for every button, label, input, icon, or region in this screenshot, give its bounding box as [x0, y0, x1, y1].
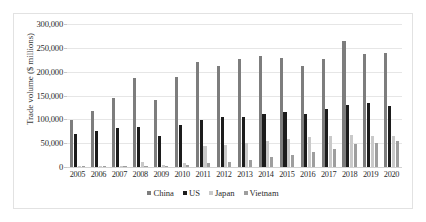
year-group: 2013 — [235, 24, 256, 167]
year-group: 2011 — [193, 24, 214, 167]
legend-label: Japan — [215, 188, 235, 198]
year-group: 2019 — [360, 24, 381, 167]
year-group: 2018 — [339, 24, 360, 167]
bar-china-2010 — [175, 77, 178, 167]
bar-china-2017 — [322, 59, 325, 167]
legend-item-china[interactable]: China — [147, 188, 174, 198]
x-tick-label: 2012 — [216, 170, 231, 179]
y-tick-label: 300,000 — [36, 19, 63, 29]
legend-item-japan[interactable]: Japan — [209, 188, 235, 198]
bar-china-2011 — [196, 62, 199, 167]
x-tick-label: 2011 — [196, 170, 211, 179]
bar-japan-2010 — [183, 163, 186, 167]
legend-item-us[interactable]: US — [183, 188, 200, 198]
year-group: 2017 — [318, 24, 339, 167]
bar-japan-2008 — [141, 162, 144, 167]
bar-japan-2009 — [162, 165, 165, 167]
chart-container: Trade volume ($ millions) 050,000100,000… — [13, 13, 413, 209]
bar-vietnam-2009 — [165, 166, 168, 167]
bar-japan-2014 — [266, 141, 269, 167]
bar-china-2019 — [363, 54, 366, 167]
x-tick-label: 2008 — [133, 170, 148, 179]
x-tick-label: 2018 — [342, 170, 357, 179]
bar-us-2010 — [179, 125, 182, 167]
bar-china-2005 — [70, 120, 73, 167]
year-group: 2012 — [214, 24, 235, 167]
year-group: 2015 — [276, 24, 297, 167]
bar-vietnam-2020 — [396, 141, 399, 167]
bar-us-2007 — [116, 128, 119, 167]
bar-us-2012 — [221, 117, 224, 167]
year-group: 2014 — [255, 24, 276, 167]
bar-us-2016 — [304, 114, 307, 167]
bar-china-2016 — [301, 66, 304, 167]
x-tick-label: 2010 — [174, 170, 189, 179]
y-tick-label: 250,000 — [36, 43, 63, 53]
bar-us-2013 — [242, 117, 245, 167]
bar-japan-2020 — [392, 136, 395, 167]
legend-label: Vietnam — [250, 188, 279, 198]
bar-china-2015 — [280, 58, 283, 167]
x-tick-label: 2013 — [237, 170, 252, 179]
x-tick-label: 2006 — [91, 170, 106, 179]
bar-vietnam-2016 — [312, 152, 315, 167]
bar-china-2007 — [112, 98, 115, 167]
bar-vietnam-2011 — [207, 163, 210, 167]
bar-vietnam-2018 — [354, 144, 357, 167]
bar-us-2018 — [346, 105, 349, 167]
bar-us-2014 — [262, 114, 265, 167]
bar-japan-2017 — [329, 136, 332, 167]
bar-us-2009 — [158, 136, 161, 167]
bar-vietnam-2012 — [228, 162, 231, 167]
bar-vietnam-2017 — [333, 149, 336, 167]
x-tick-label: 2014 — [258, 170, 273, 179]
bar-japan-2016 — [308, 137, 311, 167]
year-group: 2010 — [172, 24, 193, 167]
x-tick-label: 2015 — [279, 170, 294, 179]
bar-vietnam-2015 — [291, 155, 294, 167]
y-tick-label: 100,000 — [36, 114, 63, 124]
bar-china-2018 — [342, 41, 345, 167]
y-tick-label: 0 — [59, 162, 63, 172]
bar-japan-2005 — [78, 166, 81, 167]
bar-china-2012 — [217, 66, 220, 167]
x-tick-label: 2020 — [384, 170, 399, 179]
bar-us-2015 — [283, 112, 286, 167]
year-group: 2009 — [151, 24, 172, 167]
year-group: 2007 — [109, 24, 130, 167]
year-group: 2008 — [130, 24, 151, 167]
bar-china-2020 — [384, 53, 387, 167]
bar-us-2006 — [95, 131, 98, 167]
bar-china-2009 — [154, 100, 157, 167]
bar-vietnam-2014 — [270, 157, 273, 167]
legend-swatch-icon — [183, 191, 187, 195]
bar-china-2006 — [91, 111, 94, 167]
bar-japan-2012 — [224, 145, 227, 167]
year-group: 2006 — [88, 24, 109, 167]
bar-groups: 2005200620072008200920102011201220132014… — [67, 24, 402, 167]
bar-japan-2013 — [245, 143, 248, 167]
x-tick-label: 2019 — [363, 170, 378, 179]
bar-japan-2011 — [203, 146, 206, 167]
gridline — [67, 167, 402, 168]
y-axis-title: Trade volume ($ millions) — [25, 19, 35, 139]
bar-us-2011 — [200, 120, 203, 167]
y-tick-label: 150,000 — [36, 91, 63, 101]
y-tick-label: 50,000 — [41, 138, 63, 148]
bar-us-2005 — [74, 134, 77, 167]
bar-japan-2019 — [371, 136, 374, 167]
legend-item-vietnam[interactable]: Vietnam — [244, 188, 279, 198]
year-group: 2016 — [297, 24, 318, 167]
bar-japan-2007 — [120, 166, 123, 167]
year-group: 2020 — [381, 24, 402, 167]
x-tick-label: 2017 — [321, 170, 336, 179]
bar-vietnam-2008 — [144, 166, 147, 167]
legend-label: China — [153, 188, 174, 198]
y-tick-label: 200,000 — [36, 67, 63, 77]
chart-legend: ChinaUSJapanVietnam — [14, 188, 412, 198]
bar-china-2014 — [259, 56, 262, 167]
bar-vietnam-2005 — [82, 166, 85, 167]
plot-area: 050,000100,000150,000200,000250,000300,0… — [67, 24, 402, 167]
legend-swatch-icon — [244, 191, 248, 195]
x-tick-label: 2009 — [154, 170, 169, 179]
